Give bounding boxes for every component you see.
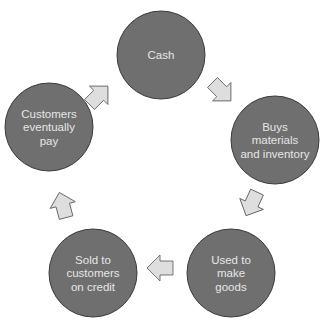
node-label: make [217,267,245,279]
node-label: Sold to [75,254,111,266]
node-pay: Customerseventuallypay [5,83,93,171]
node-label: Customers [21,108,77,120]
arrow-icon [47,189,79,221]
node-used: Used tomakegoods [187,229,275,317]
node-label: Used to [211,254,251,266]
node-label: pay [40,135,59,147]
node-buys: Buysmaterialsand inventory [231,96,319,184]
arrow-icon [234,187,269,222]
arrow-buys-to-used [234,187,269,222]
node-label: on credit [71,281,116,293]
node-cash: Cash [117,11,205,99]
node-label: goods [215,281,247,293]
arrow-icon [203,73,240,110]
cash-cycle-diagram: CashBuysmaterialsand inventoryUsed tomak… [0,0,322,327]
node-label: and inventory [240,148,309,160]
node-label: Cash [148,49,175,61]
arrow-icon [147,255,173,281]
node-label: eventually [23,121,75,133]
node-label: Buys [262,121,288,133]
arrow-sold-to-pay [47,189,79,221]
node-label: customers [66,267,119,279]
arrow-cash-to-buys [203,73,240,110]
node-sold: Sold tocustomerson credit [49,229,137,317]
node-label: materials [252,134,299,146]
arrow-used-to-sold [147,255,173,281]
